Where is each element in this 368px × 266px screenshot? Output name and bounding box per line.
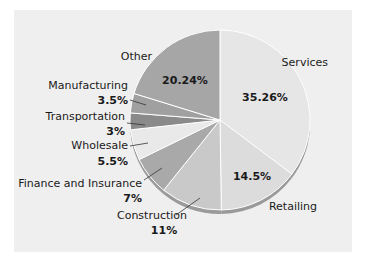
value-other: 20.24%: [162, 74, 208, 87]
value-finance-and-insurance: 7%: [123, 192, 142, 205]
value-services: 35.26%: [242, 91, 288, 104]
pie-chart: Services35.26%Retailing14.5%Construction…: [0, 0, 368, 266]
label-wholesale: Wholesale: [71, 139, 128, 152]
value-transportation: 3%: [106, 125, 125, 138]
label-manufacturing: Manufacturing: [48, 79, 128, 92]
value-wholesale: 5.5%: [97, 155, 128, 168]
label-retailing: Retailing: [269, 200, 317, 213]
value-retailing: 14.5%: [233, 170, 271, 183]
label-finance-and-insurance: Finance and Insurance: [18, 177, 142, 190]
value-manufacturing: 3.5%: [97, 94, 128, 107]
label-transportation: Transportation: [45, 110, 125, 123]
label-other: Other: [121, 50, 153, 63]
label-construction: Construction: [117, 209, 187, 222]
label-services: Services: [282, 56, 329, 69]
value-construction: 11%: [151, 224, 177, 237]
